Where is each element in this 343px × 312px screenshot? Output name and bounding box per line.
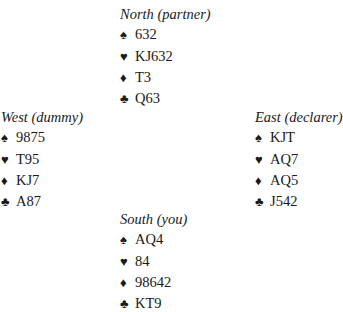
heart-icon: ♥ xyxy=(1,150,16,170)
south-clubs: ♣KT9 xyxy=(120,293,187,312)
spade-icon: ♠ xyxy=(255,128,270,148)
east-hearts-cards: AQ7 xyxy=(270,151,298,167)
north-diamonds-cards: T3 xyxy=(135,69,151,85)
south-diamonds-cards: 98642 xyxy=(135,274,171,290)
east-hand-title: East (declarer) xyxy=(255,107,343,127)
heart-icon: ♥ xyxy=(120,47,135,67)
north-hand-title: North (partner) xyxy=(120,4,211,24)
heart-icon: ♥ xyxy=(255,150,270,170)
south-diamonds: ♦98642 xyxy=(120,272,187,293)
east-diamonds-cards: AQ5 xyxy=(270,172,298,188)
south-clubs-cards: KT9 xyxy=(135,295,162,311)
south-spades: ♠AQ4 xyxy=(120,229,187,250)
east-hearts: ♥AQ7 xyxy=(255,149,343,170)
heart-icon: ♥ xyxy=(120,252,135,272)
west-diamonds: ♦KJ7 xyxy=(1,170,83,191)
club-icon: ♣ xyxy=(255,192,270,212)
north-hearts-cards: KJ632 xyxy=(135,48,173,64)
south-hand-title: South (you) xyxy=(120,209,187,229)
west-diamonds-cards: KJ7 xyxy=(16,172,39,188)
north-clubs-cards: Q63 xyxy=(135,90,160,106)
club-icon: ♣ xyxy=(120,89,135,109)
diamond-icon: ♦ xyxy=(120,68,135,88)
west-clubs: ♣A87 xyxy=(1,191,83,212)
north-diamonds: ♦T3 xyxy=(120,67,211,88)
west-hand: West (dummy) ♠9875 ♥T95 ♦KJ7 ♣A87 xyxy=(1,107,83,212)
north-spades-cards: 632 xyxy=(135,26,157,42)
spade-icon: ♠ xyxy=(1,128,16,148)
south-hearts: ♥84 xyxy=(120,251,187,272)
diamond-icon: ♦ xyxy=(1,171,16,191)
north-spades: ♠632 xyxy=(120,24,211,45)
club-icon: ♣ xyxy=(120,294,135,312)
west-spades-cards: 9875 xyxy=(16,129,45,145)
east-diamonds: ♦AQ5 xyxy=(255,170,343,191)
club-icon: ♣ xyxy=(1,192,16,212)
west-clubs-cards: A87 xyxy=(16,193,41,209)
west-hearts-cards: T95 xyxy=(16,151,39,167)
diamond-icon: ♦ xyxy=(120,273,135,293)
east-spades: ♠KJT xyxy=(255,127,343,148)
south-spades-cards: AQ4 xyxy=(135,231,163,247)
south-hearts-cards: 84 xyxy=(135,253,150,269)
south-hand: South (you) ♠AQ4 ♥84 ♦98642 ♣KT9 xyxy=(120,209,187,312)
spade-icon: ♠ xyxy=(120,230,135,250)
east-hand: East (declarer) ♠KJT ♥AQ7 ♦AQ5 ♣J542 xyxy=(255,107,343,212)
west-hearts: ♥T95 xyxy=(1,149,83,170)
east-clubs-cards: J542 xyxy=(270,193,297,209)
diamond-icon: ♦ xyxy=(255,171,270,191)
west-spades: ♠9875 xyxy=(1,127,83,148)
west-hand-title: West (dummy) xyxy=(1,107,83,127)
north-clubs: ♣Q63 xyxy=(120,88,211,109)
east-clubs: ♣J542 xyxy=(255,191,343,212)
north-hearts: ♥KJ632 xyxy=(120,46,211,67)
spade-icon: ♠ xyxy=(120,25,135,45)
north-hand: North (partner) ♠632 ♥KJ632 ♦T3 ♣Q63 xyxy=(120,4,211,109)
east-spades-cards: KJT xyxy=(270,129,295,145)
